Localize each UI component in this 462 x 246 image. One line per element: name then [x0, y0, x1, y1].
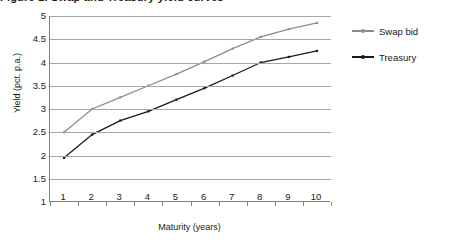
data-point-marker — [288, 28, 290, 30]
y-axis-tick-label: 3 — [22, 104, 46, 114]
gridline — [50, 86, 331, 87]
x-axis-tick-label: 6 — [189, 191, 219, 202]
gridline — [50, 179, 331, 180]
x-axis-tick — [78, 202, 79, 206]
x-axis-tick-label: 4 — [132, 191, 162, 202]
data-point-marker — [175, 73, 177, 75]
x-axis-title: Maturity (years) — [49, 222, 330, 232]
x-axis-tick-label: 2 — [76, 191, 106, 202]
y-axis-tick-label: 2.5 — [22, 127, 46, 137]
y-axis-tick-label: 1 — [22, 197, 46, 207]
x-axis-tick-label: 1 — [48, 191, 78, 202]
y-axis-tick-label: 1.5 — [22, 174, 46, 184]
yield-curve-chart: Figure 1. Swap and Treasury yield curves… — [0, 0, 462, 246]
x-axis-tick — [191, 202, 192, 206]
x-axis-tick-label: 10 — [301, 191, 331, 202]
chart-title: Figure 1. Swap and Treasury yield curves — [0, 0, 340, 5]
x-axis-tick — [50, 202, 51, 206]
legend-label-swap-bid: Swap bid — [379, 26, 418, 37]
data-point-marker — [232, 74, 234, 76]
data-point-marker — [203, 87, 205, 89]
data-point-marker — [91, 133, 93, 135]
x-axis-tick — [331, 202, 332, 206]
x-axis-tick-label: 5 — [160, 191, 190, 202]
data-point-marker — [175, 99, 177, 101]
legend-line-marker-icon — [352, 26, 374, 36]
x-axis-tick-label: 3 — [104, 191, 134, 202]
x-axis-tick — [275, 202, 276, 206]
y-axis-tick-label: 2 — [22, 151, 46, 161]
y-axis-tick-labels: 11.522.533.544.55 — [20, 0, 46, 246]
x-axis-tick — [219, 202, 220, 206]
x-axis-tick — [106, 202, 107, 206]
x-axis-tick-label: 9 — [273, 191, 303, 202]
legend-label-treasury: Treasury — [379, 52, 416, 63]
y-axis-tick-label: 3.5 — [22, 81, 46, 91]
x-axis-tick — [303, 202, 304, 206]
y-axis-tick-label: 4 — [22, 58, 46, 68]
gridline — [50, 39, 331, 40]
y-axis-tick-label: 4.5 — [22, 34, 46, 44]
legend-entry-swap-bid: Swap bid — [352, 18, 460, 44]
gridline — [50, 156, 331, 157]
data-point-marker — [63, 157, 65, 159]
y-axis-tick-label: 5 — [22, 11, 46, 21]
gridline — [50, 109, 331, 110]
data-point-marker — [119, 120, 121, 122]
x-axis-tick — [162, 202, 163, 206]
chart-legend: Swap bid Treasury — [352, 18, 460, 70]
data-point-marker — [119, 96, 121, 98]
data-point-marker — [147, 110, 149, 112]
plot-area — [49, 16, 330, 202]
gridline — [50, 132, 331, 133]
data-point-marker — [288, 56, 290, 58]
legend-line-marker-icon — [352, 52, 374, 62]
x-axis-tick-label: 7 — [217, 191, 247, 202]
data-point-marker — [316, 22, 318, 24]
x-axis-tick-label: 8 — [245, 191, 275, 202]
data-point-marker — [316, 50, 318, 52]
legend-entry-treasury: Treasury — [352, 44, 460, 70]
x-axis-tick — [134, 202, 135, 206]
x-axis-tick — [247, 202, 248, 206]
data-point-marker — [260, 36, 262, 38]
gridline — [50, 63, 331, 64]
gridline — [50, 16, 331, 17]
data-point-marker — [232, 47, 234, 49]
